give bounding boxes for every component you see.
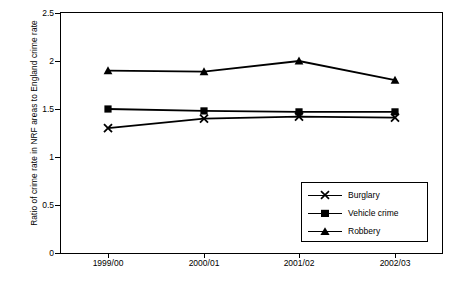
legend-item-robbery: Robbery	[308, 224, 380, 238]
legend: Burglary Vehicle crime Robbery	[301, 182, 428, 242]
legend-label: Robbery	[348, 226, 380, 236]
data-point-marker	[391, 108, 398, 115]
series-line	[108, 117, 395, 129]
legend-label: Vehicle crime	[348, 208, 399, 218]
square-marker-icon	[308, 208, 342, 218]
series-line	[108, 61, 395, 80]
legend-label: Burglary	[348, 190, 380, 200]
data-point-marker	[295, 108, 302, 115]
series-plot	[104, 57, 400, 133]
crime-ratio-line-chart: Ratio of crime rate in NRF areas to Engl…	[0, 0, 455, 284]
legend-item-vehicle-crime: Vehicle crime	[308, 206, 399, 220]
triangle-marker-icon	[308, 226, 342, 236]
data-point-marker	[200, 107, 207, 114]
data-point-marker	[104, 105, 111, 112]
cross-marker-icon	[308, 190, 342, 200]
legend-item-burglary: Burglary	[308, 188, 380, 202]
series-line	[108, 109, 395, 112]
